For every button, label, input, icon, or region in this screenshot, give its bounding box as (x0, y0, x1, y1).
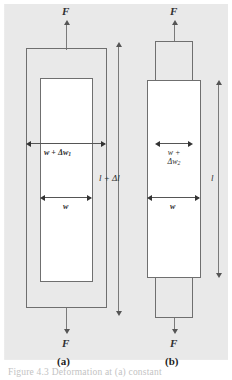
panel-a-force-top-shaft (66, 24, 67, 50)
panel-a-original-width-arrowhead-left (40, 195, 45, 201)
panel-a-deformed-width-arrowhead-left (26, 141, 31, 147)
panel-b-original-specimen-outline (147, 80, 201, 278)
panel-b-force-bottom-label: F (170, 338, 177, 349)
original-length-label: l (211, 174, 214, 183)
panel-b-deformed-width-label-line1: w + (158, 148, 190, 157)
original-length-arrowhead-top (216, 80, 222, 85)
panel-a-force-top-label: F (62, 6, 69, 17)
panel-b-force-top-shaft (174, 24, 175, 42)
original-length-dimension-shaft (218, 84, 219, 274)
panel-b-deformed-width-label-line2-main: Δw (168, 157, 178, 166)
panel-a-force-bottom-label: F (62, 338, 69, 349)
panel-b-original-width-arrowhead-right (195, 195, 200, 201)
panel-b-original-width-arrowhead-left (147, 195, 152, 201)
original-length-arrowhead-bottom (216, 273, 222, 278)
panel-b-force-top-arrowhead (172, 20, 178, 25)
panel-a-deformed-width-label: w + Δw1 (44, 149, 71, 158)
panel-b-original-width-dimension-line (149, 197, 199, 198)
panel-a-caption-letter: (a) (57, 355, 70, 367)
panel-a-force-top-arrowhead (64, 20, 70, 25)
panel-b-deformed-width-label: w + Δw2 (158, 148, 190, 167)
panel-a-deformed-width-label-subscript: 1 (68, 151, 71, 157)
panel-a-original-specimen-outline (40, 78, 93, 282)
deformed-length-label: l + Δl (99, 174, 120, 183)
panel-b-caption-letter: (b) (165, 355, 178, 367)
figure-caption: Figure 4.3 Deformation at (a) constant (8, 367, 228, 379)
panel-b-deformed-width-label-line2: Δw2 (158, 157, 190, 167)
panel-a-deformed-width-arrowhead-right (101, 141, 106, 147)
panel-a-deformed-width-label-main: w + Δw (44, 148, 68, 157)
panel-a-force-bottom-shaft (66, 308, 67, 330)
panel-a-original-width-arrowhead-right (87, 195, 92, 201)
panel-b-original-width-label: w (170, 203, 175, 211)
panel-a-deformed-width-dimension-line (28, 143, 105, 144)
panel-b-deformed-width-arrowhead-right (188, 141, 193, 147)
deformed-length-arrowhead-bottom (116, 311, 122, 316)
deformed-length-arrowhead-top (116, 42, 122, 47)
panel-b-deformed-width-label-line2-subscript: 2 (178, 160, 181, 166)
panel-a-original-width-label: w (63, 203, 68, 211)
panel-a-force-bottom-arrowhead (64, 329, 70, 334)
figure-container: F w + Δw1 w F (a) l + Δl F (0, 0, 232, 380)
panel-b-deformed-width-dimension-line (157, 143, 191, 144)
panel-b-force-bottom-arrowhead (172, 329, 178, 334)
panel-b-deformed-width-arrowhead-left (155, 141, 160, 147)
panel-a-original-width-dimension-line (42, 197, 91, 198)
panel-b-force-top-label: F (170, 6, 177, 17)
